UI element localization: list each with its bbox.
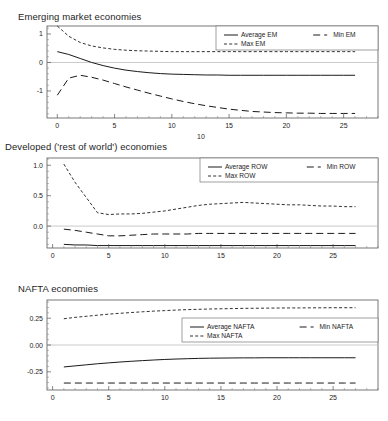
legend-min-label: Min EM [333,31,355,38]
x-tick-label: 20 [273,394,281,401]
x-tick-label: 25 [340,122,348,129]
legend-average-label: Average ROW [225,163,268,171]
y-tick-label: -0.25 [27,368,43,375]
y-tick-label: 1.0 [33,162,43,169]
legend-min-label: Min ROW [327,163,356,170]
legend-average-label: Average NAFTA [207,323,255,331]
x-tick-label: 25 [329,394,337,401]
series-line-dashed [57,75,355,113]
y-tick-label: 0.00 [29,342,43,349]
y-tick-label: 0 [39,59,43,66]
series-line-solid [64,358,356,367]
legend-max-label: Max NAFTA [207,332,243,339]
x-tick-label: 15 [225,122,233,129]
chart-nafta: 0.250.00-0.250510152025Average NAFTAMin … [0,280,388,421]
panel-em: Emerging market economies 10-10510152025… [0,0,388,150]
legend-max-label: Max ROW [225,172,256,179]
y-tick-label: 1 [39,30,43,37]
x-tick-label: 5 [113,122,117,129]
x-tick-label: 10 [168,122,176,129]
panel-nafta: NAFTA economies 0.250.00-0.250510152025A… [0,280,388,421]
series-line-dotted [64,308,356,319]
x-tick-label: 25 [329,252,337,259]
chart-em: 10-10510152025Average EMMin EMMax EM [0,0,388,150]
x-tick-label: 5 [107,394,111,401]
panel-row: Developed ('rest of world') economies 1.… [0,136,388,281]
x-tick-label: 15 [217,252,225,259]
y-tick-label: -1 [37,87,43,94]
y-tick-label: 0.5 [33,192,43,199]
x-tick-label: 20 [282,122,290,129]
x-tick-label: 15 [217,394,225,401]
x-tick-label: 0 [51,252,55,259]
legend-max-label: Max EM [241,40,265,47]
legend-min-label: Min NAFTA [320,323,354,330]
series-line-solid [64,244,356,245]
y-tick-label: 0.0 [33,223,43,230]
x-tick-label: 10 [161,252,169,259]
y-tick-label: 0.25 [29,315,43,322]
x-tick-label: 0 [55,122,59,129]
x-tick-label: 20 [273,252,281,259]
chart-row: 1.00.50.00510152025Average ROWMin ROWMax… [0,136,388,281]
series-line-dashed [64,229,356,236]
series-line-solid [57,52,355,76]
legend-average-label: Average EM [241,31,277,39]
x-tick-label: 0 [51,394,55,401]
x-tick-label: 5 [107,252,111,259]
figure-root: Emerging market economies 10-10510152025… [0,0,388,421]
x-tick-label: 10 [161,394,169,401]
